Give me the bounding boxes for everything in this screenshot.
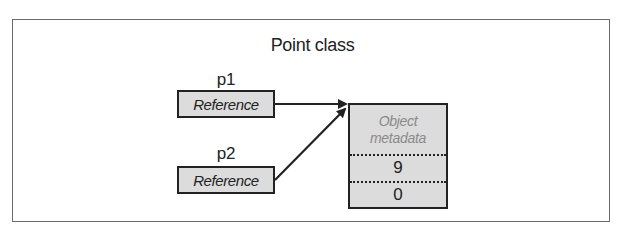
object-field-y: 0 (350, 183, 446, 208)
reference-box-p1: Reference (177, 90, 275, 118)
reference-label-p2: Reference (193, 172, 259, 189)
variable-label-p2: p2 (177, 144, 275, 164)
object-box: Object metadata 9 0 (348, 103, 448, 209)
object-field-x: 9 (350, 156, 446, 183)
variable-label-p1: p1 (177, 70, 275, 90)
object-metadata-line1: Object (379, 113, 418, 130)
object-metadata-line2: metadata (370, 130, 426, 147)
reference-label-p1: Reference (193, 96, 259, 113)
reference-box-p2: Reference (177, 166, 275, 194)
object-metadata: Object metadata (350, 105, 446, 156)
diagram-title: Point class (0, 35, 625, 56)
object-field-x-value: 9 (393, 158, 402, 178)
object-field-y-value: 0 (393, 185, 402, 205)
